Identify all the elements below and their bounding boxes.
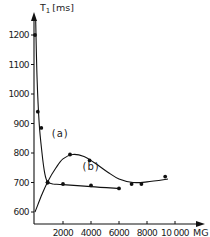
data-point: [130, 182, 134, 186]
curve-label: (b): [83, 161, 100, 172]
y-tick-label: 1100: [8, 60, 29, 70]
y-tick-label: 1200: [8, 30, 29, 40]
data-point: [39, 126, 43, 130]
y-axis-arrow-icon: [31, 12, 37, 21]
curve-labels: (a)(b): [52, 128, 100, 172]
y-tick-label: 900: [14, 119, 30, 129]
y-tick-label: 1000: [8, 89, 29, 99]
curve-b: [35, 154, 168, 212]
x-tick-label: 10 000: [161, 228, 190, 237]
y-tick-label: 800: [14, 148, 30, 158]
x-axis-title: MG: [193, 227, 209, 237]
curves: [35, 20, 168, 212]
data-point: [61, 182, 65, 186]
y-tick-label: 600: [14, 207, 30, 217]
y-tick-label: 700: [14, 178, 30, 188]
data-point: [68, 153, 72, 157]
data-point: [117, 187, 121, 191]
curve-a: [36, 20, 119, 188]
data-point: [46, 181, 50, 185]
curve-label: (a): [52, 128, 69, 139]
x-tick-label: 2000: [53, 228, 74, 237]
y-ticks: 600700800900100011001200: [8, 30, 34, 217]
y-axis-title: T1[ms]: [39, 2, 74, 15]
data-point: [140, 182, 144, 186]
data-point: [89, 184, 93, 188]
x-tick-label: 4000: [81, 228, 102, 237]
x-tick-label: 6000: [109, 228, 130, 237]
data-point: [163, 175, 167, 179]
data-point: [36, 110, 40, 114]
x-tick-label: 8000: [137, 228, 158, 237]
x-ticks: 200040006000800010 000: [53, 221, 190, 237]
data-point: [33, 33, 37, 37]
t1-vs-mg-chart: 600700800900100011001200 200040006000800…: [0, 0, 210, 237]
